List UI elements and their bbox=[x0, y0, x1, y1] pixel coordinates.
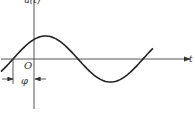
sinusoid-diagram: u(t) O φ t bbox=[0, 0, 195, 113]
origin-label: O bbox=[24, 60, 32, 71]
t-axis-label: t bbox=[189, 54, 193, 64]
y-axis-label: u(t) bbox=[24, 0, 41, 5]
phase-label: φ bbox=[21, 75, 28, 86]
